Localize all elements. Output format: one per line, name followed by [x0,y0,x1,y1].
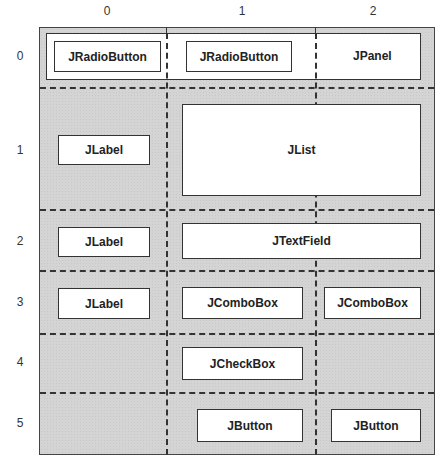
column-label-1: 1 [232,4,252,18]
jpanel-label: JPanel [353,49,392,63]
row-label-3: 3 [10,295,30,309]
jcombobox-3-2[interactable]: JComboBox [324,287,421,319]
row-divider-2-3 [40,270,434,272]
row-divider-4-5 [40,392,434,394]
jlabel-1-0: JLabel [58,135,150,165]
jbutton-5-1[interactable]: JButton [197,409,303,442]
row-label-2: 2 [10,234,30,248]
jradiobutton-0-0[interactable]: JRadioButton [54,41,161,72]
jbutton-5-2[interactable]: JButton [331,409,421,442]
row-label-1: 1 [10,143,30,157]
jradiobutton-0-1[interactable]: JRadioButton [186,41,292,72]
jlabel-2-0: JLabel [58,227,150,257]
jlist-1-1[interactable]: JList [182,104,421,196]
row-label-0: 0 [10,49,30,63]
row-divider-3-4 [40,333,434,335]
column-label-2: 2 [363,4,383,18]
column-label-0: 0 [97,4,117,18]
row-label-4: 4 [10,355,30,369]
jcheckbox-4-1[interactable]: JCheckBox [182,347,303,380]
jtextfield-2-1[interactable]: JTextField [182,223,421,259]
jcombobox-3-1[interactable]: JComboBox [182,287,303,319]
row-divider-1-2 [40,209,434,211]
row-divider-0-1 [40,87,434,89]
row-label-5: 5 [10,416,30,430]
jlabel-3-0: JLabel [58,288,150,319]
